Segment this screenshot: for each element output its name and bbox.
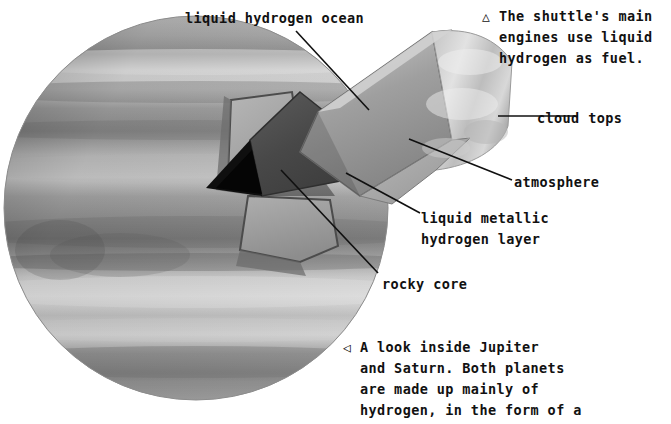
label-atmosphere: atmosphere (514, 172, 599, 193)
callout-jupiter-saturn-text: A look inside Jupiter and Saturn. Both p… (360, 337, 582, 424)
label-liquid-hydrogen-ocean: liquid hydrogen ocean (185, 8, 364, 29)
triangle-up-marker: △ (482, 6, 490, 27)
figure-canvas: liquid hydrogen ocean cloud tops atmosph… (0, 0, 671, 424)
notch-lower-face (240, 196, 338, 262)
label-liquid-metallic-hydrogen-layer: liquid metallic hydrogen layer (421, 208, 549, 250)
label-cloud-tops: cloud tops (537, 108, 622, 129)
triangle-left-marker: ◁ (343, 337, 351, 358)
callout-shuttle-text: The shuttle's main engines use liquid hy… (499, 6, 653, 69)
label-rocky-core: rocky core (382, 274, 467, 295)
